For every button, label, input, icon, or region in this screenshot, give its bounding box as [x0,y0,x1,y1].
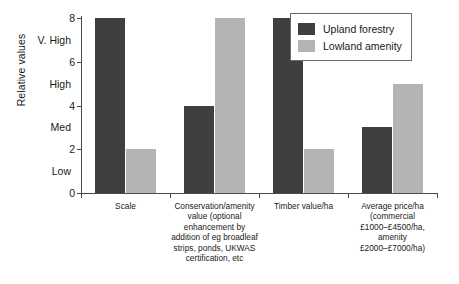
y-axis-tick-mark [77,18,81,19]
bar-chart: Relative values 02468LowMedHighV. High U… [0,0,459,284]
legend-item: Lowland amenity [298,37,402,54]
x-axis-tick-mark [348,193,349,198]
x-axis-category-label: Conservation/amenityvalue (optionalenhan… [170,201,259,263]
y-axis-category-label: V. High [38,34,81,46]
y-axis-category-label: Med [51,121,81,133]
legend-label-upland-forestry: Upland forestry [323,23,394,35]
x-axis-category-label: Timber value/ha [259,201,348,211]
x-axis-category-label: Average price/ha(commercial£1000–£4500/h… [348,201,437,253]
bar [393,84,423,193]
y-axis-tick-mark [77,62,81,63]
y-axis-category-label: High [49,78,81,90]
bar [126,149,156,193]
bar [184,106,214,194]
bar [362,127,392,193]
bar [215,18,245,193]
x-axis-tick-mark [437,193,438,198]
y-axis-tick-mark [77,149,81,150]
x-axis-tick-mark [170,193,171,198]
x-axis-tick-mark [81,193,82,198]
x-axis-tick-mark [259,193,260,198]
bar [304,149,334,193]
legend-label-lowland-amenity: Lowland amenity [323,40,402,52]
y-axis-tick-mark [77,106,81,107]
y-axis-category-label: Low [52,165,81,177]
legend-swatch-upland-forestry [298,23,315,35]
chart-legend: Upland forestry Lowland amenity [290,13,412,61]
legend-item: Upland forestry [298,20,402,37]
x-axis-category-label: Scale [81,201,170,211]
y-axis-title: Relative values [15,5,27,135]
bar [95,18,125,193]
legend-swatch-lowland-amenity [298,40,315,52]
